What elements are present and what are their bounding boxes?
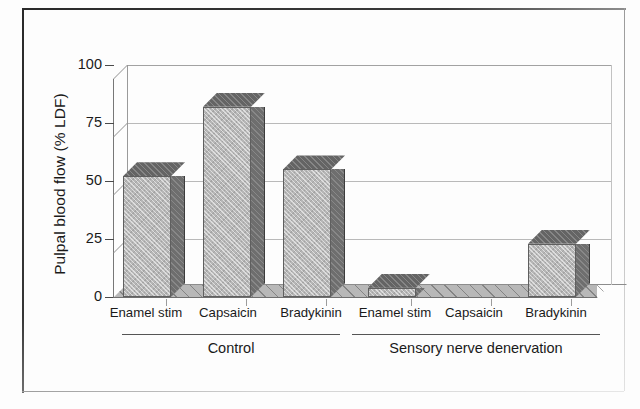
y-tick-dash-75 xyxy=(105,123,114,124)
group-rule-denervation xyxy=(352,334,600,335)
bar-front-face xyxy=(368,288,416,297)
group-label-denervation: Sensory nerve denervation xyxy=(352,340,600,356)
figure-panel: Pulpal blood flow (% LDF) 100 75 50 25 0 xyxy=(0,0,640,409)
gridline-100 xyxy=(127,65,611,66)
bar-control-enamel-stim[interactable] xyxy=(123,176,171,297)
bar-side-face xyxy=(331,169,345,297)
x-label-denervation-enamel-stim: Enamel stim xyxy=(345,305,445,320)
bar-side-face xyxy=(171,176,185,297)
bar-control-bradykinin[interactable] xyxy=(283,169,331,297)
plot-area: 100 75 50 25 0 xyxy=(0,0,640,409)
x-label-denervation-capsaicin: Capsaicin xyxy=(432,305,516,320)
y-tick-label-100: 100 xyxy=(62,56,102,72)
x-label-control-bradykinin: Bradykinin xyxy=(264,305,358,320)
y-tick-label-25: 25 xyxy=(62,230,102,246)
y-tick-dash-100 xyxy=(105,65,114,66)
bar-control-capsaicin[interactable] xyxy=(203,107,251,297)
x-label-control-enamel-stim: Enamel stim xyxy=(96,305,196,320)
y-tick-connector-75 xyxy=(113,123,144,137)
bar-denervation-enamel-stim[interactable] xyxy=(368,288,416,297)
y-tick-dash-25 xyxy=(105,239,114,240)
y-tick-label-0: 0 xyxy=(62,288,102,304)
gridline-75 xyxy=(127,123,611,124)
bar-top-face xyxy=(203,93,265,107)
bar-side-face xyxy=(251,107,265,297)
bar-front-face xyxy=(528,244,576,297)
x-label-denervation-bradykinin: Bradykinin xyxy=(509,305,603,320)
y-tick-label-75: 75 xyxy=(62,114,102,130)
y-tick-dash-50 xyxy=(105,181,114,182)
back-wall-right-edge xyxy=(611,65,612,284)
chart-floor-front-edge xyxy=(113,297,597,298)
y-tick-connector-100 xyxy=(113,65,144,79)
bar-front-face xyxy=(203,107,251,297)
y-axis-front-line xyxy=(113,79,114,298)
bar-top-face xyxy=(528,230,590,244)
x-label-control-capsaicin: Capsaicin xyxy=(186,305,270,320)
gridline-50 xyxy=(127,181,611,182)
group-label-control: Control xyxy=(122,340,340,356)
bar-top-face xyxy=(123,162,185,176)
bar-front-face xyxy=(283,169,331,297)
bar-denervation-bradykinin[interactable] xyxy=(528,244,576,297)
group-rule-control xyxy=(122,334,340,335)
y-tick-label-50: 50 xyxy=(62,172,102,188)
bar-front-face xyxy=(123,176,171,297)
bar-top-face xyxy=(283,155,345,169)
